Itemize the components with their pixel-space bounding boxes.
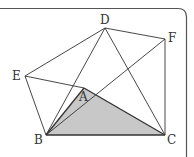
geometry-diagram: D F E A B C — [0, 0, 194, 157]
segment-eb — [25, 76, 46, 135]
label-a: A — [78, 90, 88, 104]
segment-ed — [25, 28, 105, 76]
label-d: D — [100, 13, 110, 27]
label-c: C — [167, 133, 176, 147]
label-b: B — [34, 133, 43, 147]
label-e: E — [12, 69, 21, 83]
label-f: F — [168, 31, 176, 45]
shaded-triangle-abc — [46, 88, 165, 135]
segment-df — [105, 28, 165, 39]
